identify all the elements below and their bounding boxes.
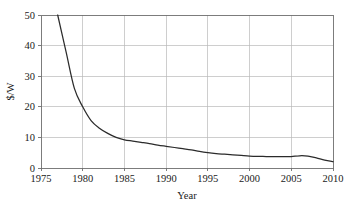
x-tick-label: 1995 (197, 173, 218, 184)
y-tick-label: 0 (30, 163, 35, 174)
chart-container: 19751980198519901995200020052010 0102030… (0, 0, 350, 206)
x-tick-label: 1975 (31, 173, 52, 184)
y-tick-label: 40 (25, 40, 36, 51)
y-axis-title: $/W (5, 82, 16, 100)
y-tick-label: 50 (25, 10, 36, 21)
x-tick-label: 1980 (72, 173, 93, 184)
y-tick-label: 20 (25, 101, 36, 112)
line-chart: 19751980198519901995200020052010 0102030… (0, 0, 350, 206)
x-tick-label: 2005 (281, 173, 302, 184)
y-tick-label: 30 (25, 71, 36, 82)
y-tick-label: 10 (25, 132, 36, 143)
x-tick-label: 1985 (114, 173, 135, 184)
x-tick-label: 2000 (239, 173, 260, 184)
x-tick-label: 2010 (323, 173, 344, 184)
x-axis-title: Year (177, 190, 197, 201)
x-tick-label: 1990 (156, 173, 177, 184)
